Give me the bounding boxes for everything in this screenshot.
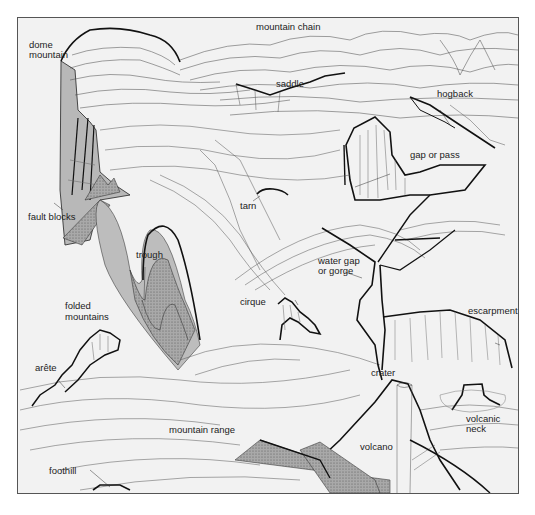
label-escarpment: escarpment: [468, 306, 518, 317]
label-fault-blocks: fault blocks: [28, 212, 76, 223]
label-gap-or-pass: gap or pass: [410, 150, 460, 161]
label-volcanic-neck-line2: neck: [466, 424, 486, 435]
escarpment: [383, 310, 512, 368]
label-folded-line2: mountains: [65, 312, 109, 323]
tarn: [257, 189, 288, 195]
label-hogback: hogback: [437, 89, 473, 100]
label-dome-line2: mountain: [29, 50, 68, 61]
landform-illustration: [0, 0, 535, 515]
dome-mountain: [61, 28, 180, 62]
label-cirque: cirque: [240, 297, 266, 308]
label-trough: trough: [136, 250, 163, 261]
label-folded-line1: folded: [65, 301, 91, 312]
label-volcano: volcano: [360, 442, 393, 453]
hogback-ridge: [410, 97, 495, 148]
label-arete: arête: [35, 363, 57, 374]
label-mountain-range: mountain range: [169, 425, 235, 436]
foothill: [93, 485, 130, 490]
label-tarn: tarn: [240, 201, 256, 212]
label-crater: crater: [371, 368, 395, 379]
water-gap-gorge: [322, 228, 382, 380]
label-water-gap-line2: or gorge: [318, 266, 353, 277]
label-saddle: saddle: [276, 79, 304, 90]
label-foothill: foothill: [49, 466, 76, 477]
label-mountain-chain: mountain chain: [256, 22, 320, 33]
